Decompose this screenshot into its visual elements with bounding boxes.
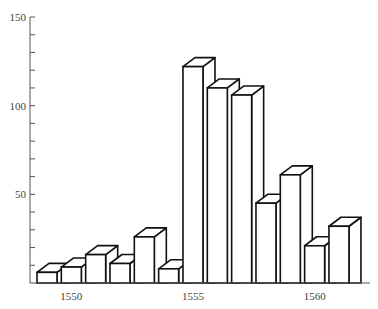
y-tick-label-100: 100 [10,100,27,112]
y-axis: 50100150 [10,11,36,283]
y-tick-label-50: 50 [15,188,27,200]
bar-1561 [329,217,361,283]
x-tick-label-1560: 1560 [304,290,327,302]
y-tick-label-150: 150 [10,11,27,23]
x-tick-label-1550: 1550 [60,290,83,302]
x-tick-label-1555: 1555 [182,290,205,302]
bars-group [37,58,361,283]
chart-canvas: 50100150 155015551560 [0,0,378,309]
bar-chart-3d: 50100150 155015551560 150 100 50 1550 15… [0,0,378,309]
x-axis: 155015551560 [30,283,370,302]
